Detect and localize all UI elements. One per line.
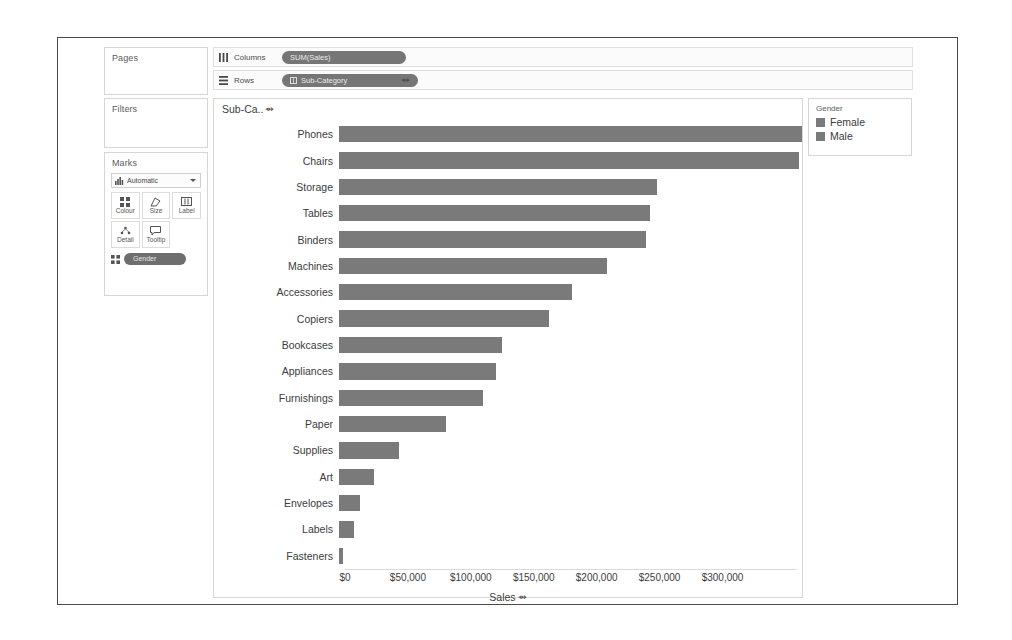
columns-shelf[interactable]: Columns SUM(Sales) [213, 47, 913, 67]
category-label[interactable]: Copiers [214, 313, 339, 325]
x-axis-tick-label: $150,000 [513, 572, 555, 583]
legend-item[interactable]: Female [816, 116, 904, 128]
bar-track [339, 437, 802, 463]
bar-mark[interactable] [339, 179, 657, 195]
bar-chart-plot: PhonesChairsStorageTablesBindersMachines… [214, 121, 802, 569]
pages-shelf-title: Pages [105, 48, 207, 63]
marks-size-label: Size [150, 208, 163, 215]
bar-row: Envelopes [214, 490, 802, 516]
bar-row: Appliances [214, 358, 802, 384]
bar-track [339, 174, 802, 200]
category-label[interactable]: Paper [214, 418, 339, 430]
bar-track [339, 543, 802, 569]
columns-pill-sum-sales[interactable]: SUM(Sales) [282, 51, 406, 64]
sort-descending-icon[interactable]: ⇴ [401, 74, 410, 87]
chevron-down-icon[interactable] [190, 179, 196, 182]
rows-pill-sub-category[interactable]: Sub-Category ⇴ [282, 74, 418, 87]
bar-mark[interactable] [339, 521, 354, 537]
bar-mark[interactable] [339, 495, 360, 511]
bar-track [339, 411, 802, 437]
colour-icon [120, 196, 130, 207]
columns-shelf-label: Columns [234, 53, 276, 62]
category-label[interactable]: Accessories [214, 286, 339, 298]
category-label[interactable]: Binders [214, 234, 339, 246]
bar-mark[interactable] [339, 469, 374, 485]
screenshot-root: Pages Filters Marks [0, 0, 1012, 640]
bar-mark[interactable] [339, 442, 399, 458]
bar-mark[interactable] [339, 310, 549, 326]
marks-button-grid: Colour Size [111, 192, 201, 248]
category-label[interactable]: Tables [214, 207, 339, 219]
rows-pill-label: Sub-Category [301, 74, 347, 87]
marks-detail-button[interactable]: Detail [111, 221, 140, 248]
bar-mark[interactable] [339, 205, 650, 221]
bar-row: Labels [214, 516, 802, 542]
bar-mark[interactable] [339, 363, 496, 379]
category-label[interactable]: Storage [214, 181, 339, 193]
mark-type-dropdown[interactable]: Automatic [111, 173, 201, 188]
bar-track [339, 121, 802, 147]
bar-row: Chairs [214, 147, 802, 173]
bar-chart-icon [115, 175, 124, 186]
sort-descending-icon[interactable]: ⇴ [518, 592, 527, 602]
marks-label-button[interactable]: Label [172, 192, 201, 219]
bar-mark[interactable] [339, 337, 502, 353]
marks-encoding-row: Gender [111, 253, 201, 265]
marks-tooltip-button[interactable]: Tooltip [142, 221, 171, 248]
legend-item[interactable]: Male [816, 130, 904, 142]
bar-row: Binders [214, 226, 802, 252]
bar-row: Accessories [214, 279, 802, 305]
bar-mark[interactable] [339, 390, 483, 406]
bar-track [339, 332, 802, 358]
category-label[interactable]: Envelopes [214, 497, 339, 509]
bar-row: Tables [214, 200, 802, 226]
rows-shelf[interactable]: Rows Sub-Category ⇴ [213, 70, 913, 90]
bar-mark[interactable] [339, 548, 343, 564]
sort-descending-icon[interactable]: ⇴ [266, 104, 275, 114]
category-label[interactable]: Phones [214, 128, 339, 140]
bar-mark[interactable] [339, 231, 646, 247]
category-label[interactable]: Furnishings [214, 392, 339, 404]
marks-colour-button[interactable]: Colour [111, 192, 140, 219]
category-label[interactable]: Appliances [214, 365, 339, 377]
filters-shelf-title: Filters [105, 99, 207, 114]
bar-track [339, 147, 802, 173]
dimension-icon [290, 77, 297, 84]
bar-row: Machines [214, 253, 802, 279]
marks-gender-pill[interactable]: Gender [124, 253, 186, 265]
category-label[interactable]: Labels [214, 523, 339, 535]
colour-legend[interactable]: Gender FemaleMale [808, 98, 912, 156]
bar-track [339, 358, 802, 384]
legend-swatch [816, 132, 825, 141]
marks-card[interactable]: Marks Automatic [104, 152, 208, 296]
x-axis-tick-label: $0 [339, 572, 350, 583]
bar-mark[interactable] [339, 416, 446, 432]
bar-rows-container: PhonesChairsStorageTablesBindersMachines… [214, 121, 802, 569]
category-label[interactable]: Machines [214, 260, 339, 272]
category-label[interactable]: Bookcases [214, 339, 339, 351]
x-axis-tick-label: $100,000 [450, 572, 492, 583]
bar-track [339, 253, 802, 279]
bar-mark[interactable] [339, 284, 572, 300]
category-label[interactable]: Supplies [214, 444, 339, 456]
bar-mark[interactable] [339, 258, 607, 274]
category-label[interactable]: Art [214, 471, 339, 483]
bar-track [339, 226, 802, 252]
category-label[interactable]: Chairs [214, 155, 339, 167]
bar-track [339, 305, 802, 331]
legend-label: Male [830, 130, 853, 142]
bar-track [339, 279, 802, 305]
bar-mark[interactable] [339, 126, 802, 142]
filters-shelf-card[interactable]: Filters [104, 98, 208, 148]
pages-shelf-card[interactable]: Pages [104, 47, 208, 95]
marks-size-button[interactable]: Size [142, 192, 171, 219]
row-field-header[interactable]: Sub-Ca.. ⇴ [222, 103, 274, 115]
category-label[interactable]: Fasteners [214, 550, 339, 562]
bar-mark[interactable] [339, 152, 799, 168]
bar-row: Art [214, 464, 802, 490]
x-axis-title[interactable]: Sales ⇴ [214, 591, 802, 603]
legend-label: Female [830, 116, 865, 128]
bar-track [339, 464, 802, 490]
bar-row: Bookcases [214, 332, 802, 358]
label-icon [181, 196, 192, 207]
